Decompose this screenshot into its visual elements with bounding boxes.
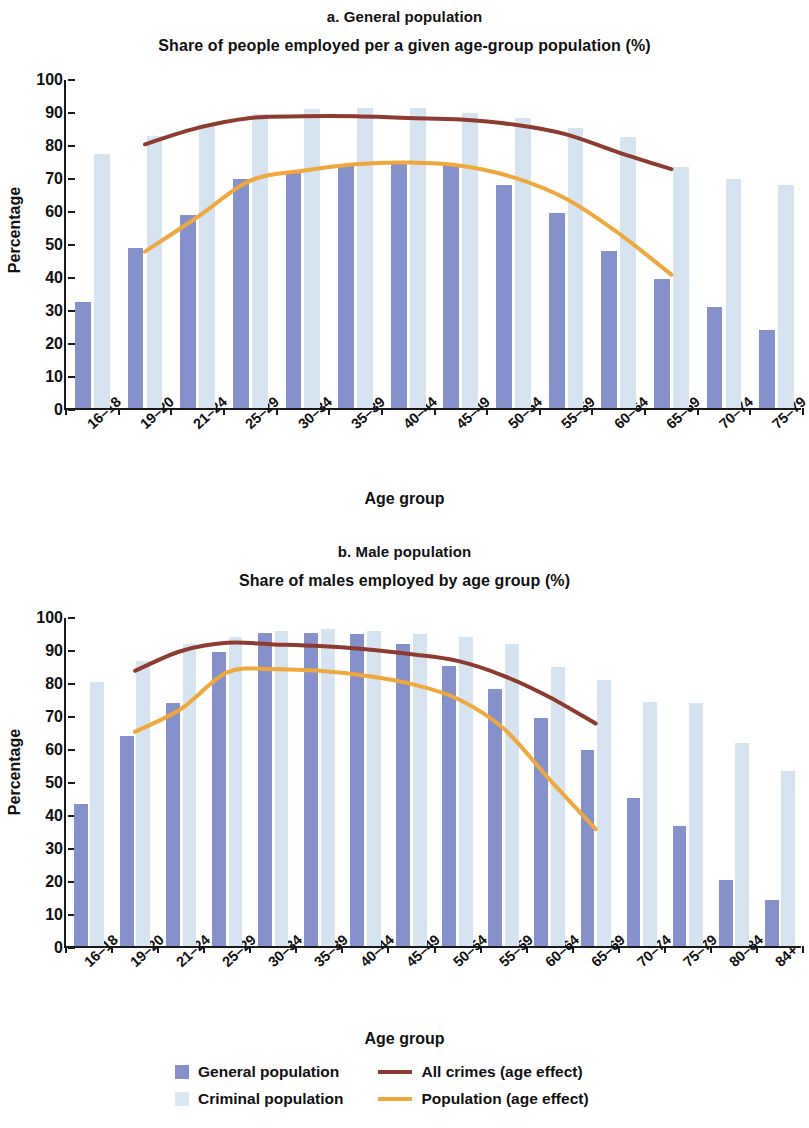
legend-column-lines: All crimes (age effect) Population (age … <box>378 1063 589 1108</box>
legend-label-all-crimes-age-effect: All crimes (age effect) <box>422 1063 583 1081</box>
y-axis-tick-label: 30 <box>45 303 63 319</box>
legend-item-criminal-population: Criminal population <box>175 1090 344 1108</box>
y-axis-tick: 20 <box>45 874 66 890</box>
y-axis-tick-label: 70 <box>45 171 63 187</box>
panel-b-subtitle: Share of males employed by age group (%) <box>0 572 809 590</box>
trend-line-overlay <box>66 80 803 410</box>
panel-a-x-axis-title: Age group <box>0 490 809 508</box>
y-axis-tick-label: 0 <box>54 402 63 418</box>
line-all-crimes-age-effect <box>135 642 596 723</box>
y-axis-tick-label: 100 <box>36 72 63 88</box>
y-axis-tick-label: 0 <box>54 940 63 956</box>
y-axis-tick-label: 60 <box>45 742 63 758</box>
y-axis-tick: 50 <box>45 237 66 253</box>
panel-a-title: a. General population <box>0 8 809 25</box>
chart-legend: General population Criminal population A… <box>175 1063 589 1108</box>
legend-label-population-age-effect: Population (age effect) <box>422 1090 589 1108</box>
y-axis-tick: 60 <box>45 204 66 220</box>
y-axis-tick: 20 <box>45 336 66 352</box>
y-axis-tick-label: 50 <box>45 775 63 791</box>
panel-b-title: b. Male population <box>0 543 809 560</box>
y-axis-tick: 30 <box>45 841 66 857</box>
y-axis-tick: 70 <box>45 709 66 725</box>
y-axis-tick: 10 <box>45 907 66 923</box>
y-axis-tick-label: 20 <box>45 874 63 890</box>
y-axis-tick-label: 10 <box>45 369 63 385</box>
y-axis-tick: 40 <box>45 270 66 286</box>
y-axis-tick: 60 <box>45 742 66 758</box>
y-axis-tick-label: 30 <box>45 841 63 857</box>
chart-panel-b: b. Male population Share of males employ… <box>0 530 809 1060</box>
line-population-age-effect <box>145 162 671 274</box>
trend-line-overlay <box>66 618 803 948</box>
y-axis-tick-label: 70 <box>45 709 63 725</box>
y-axis-tick-label: 20 <box>45 336 63 352</box>
y-axis-tick: 10 <box>45 369 66 385</box>
y-axis-tick-label: 10 <box>45 907 63 923</box>
y-axis-tick-label: 40 <box>45 808 63 824</box>
panel-a-axes: 010203040506070809010016–1819–2021–2425–… <box>64 80 801 410</box>
y-axis-tick: 70 <box>45 171 66 187</box>
panel-b-axes: 010203040506070809010016–1819–2021–2425–… <box>64 618 801 948</box>
panel-a-y-axis-title: Percentage <box>6 187 24 273</box>
y-axis-tick-label: 100 <box>36 610 63 626</box>
y-axis-tick-label: 40 <box>45 270 63 286</box>
general-population-swatch-icon <box>175 1065 189 1079</box>
y-axis-tick: 80 <box>45 138 66 154</box>
legend-item-population-age-effect: Population (age effect) <box>378 1090 589 1108</box>
line-population-age-effect <box>135 668 596 829</box>
y-axis-tick-label: 50 <box>45 237 63 253</box>
y-axis-tick: 50 <box>45 775 66 791</box>
legend-item-general-population: General population <box>175 1063 344 1081</box>
figure-page: a. General population Share of people em… <box>0 0 809 1128</box>
legend-column-bars: General population Criminal population <box>175 1063 344 1108</box>
panel-b-plot-area: Percentage 010203040506070809010016–1819… <box>0 596 809 1066</box>
legend-item-all-crimes-age-effect: All crimes (age effect) <box>378 1063 589 1081</box>
all-crimes-line-swatch-icon <box>378 1070 412 1074</box>
y-axis-tick-label: 80 <box>45 138 63 154</box>
panel-b-y-axis-title: Percentage <box>6 729 24 815</box>
legend-label-criminal-population: Criminal population <box>198 1090 344 1108</box>
y-axis-tick-label: 60 <box>45 204 63 220</box>
panel-a-subtitle: Share of people employed per a given age… <box>0 37 809 55</box>
y-axis-tick: 90 <box>45 643 66 659</box>
y-axis-tick: 80 <box>45 676 66 692</box>
y-axis-tick: 30 <box>45 303 66 319</box>
y-axis-tick: 100 <box>36 72 66 88</box>
y-axis-tick: 40 <box>45 808 66 824</box>
y-axis-tick-label: 90 <box>45 643 63 659</box>
y-axis-tick: 90 <box>45 105 66 121</box>
y-axis-tick-label: 90 <box>45 105 63 121</box>
panel-a-plot-area: Percentage 010203040506070809010016–1819… <box>0 60 809 530</box>
legend-label-general-population: General population <box>198 1063 339 1081</box>
y-axis-tick: 100 <box>36 610 66 626</box>
panel-b-x-axis-title: Age group <box>0 1030 809 1048</box>
chart-panel-a: a. General population Share of people em… <box>0 0 809 530</box>
criminal-population-swatch-icon <box>175 1092 189 1106</box>
y-axis-tick-label: 80 <box>45 676 63 692</box>
population-line-swatch-icon <box>378 1097 412 1101</box>
